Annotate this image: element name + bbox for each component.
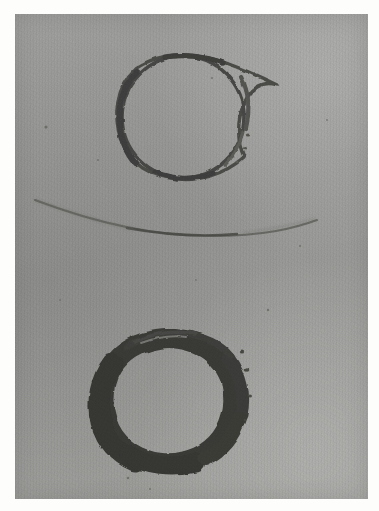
photographic-print-area	[15, 14, 368, 499]
film-grain-overlay-secondary	[15, 14, 368, 499]
figure-plate: Grayscale photographic plate showing two…	[0, 0, 379, 511]
